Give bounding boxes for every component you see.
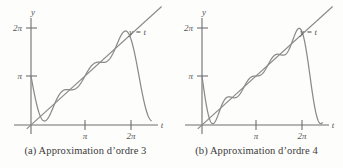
x-tick-label-2pi: 2π xyxy=(297,131,307,141)
plot-order-3: y t 2π π π 2π y = t xyxy=(0,0,171,142)
plot-order-4: y t 2π π π 2π y = t xyxy=(171,0,342,142)
caption-order-3: (a) Approximation d’ordre 3 xyxy=(0,145,171,156)
caption-order-4: (b) Approximation d’ordre 4 xyxy=(171,145,342,156)
identity-line-label: y = t xyxy=(299,27,318,37)
identity-line-curve xyxy=(27,6,162,128)
panel-approximation-order-3: y t 2π π π 2π y = t (a) Approximation d’… xyxy=(0,0,171,168)
y-axis-label: y xyxy=(201,7,206,17)
x-axis-label: t xyxy=(332,120,335,130)
identity-line-label: y = t xyxy=(128,27,147,37)
y-tick-label-2pi: 2π xyxy=(13,23,23,33)
y-tick-label-pi: π xyxy=(17,71,22,81)
identity-line-curve xyxy=(198,6,333,128)
fourier-approximation-curve xyxy=(31,31,151,121)
panel-approximation-order-4: y t 2π π π 2π y = t (b) Approximation d’… xyxy=(171,0,342,168)
figure-root: y t 2π π π 2π y = t (a) Approximation d’… xyxy=(0,0,343,168)
y-tick-label-pi: π xyxy=(188,71,193,81)
y-tick-label-2pi: 2π xyxy=(184,23,194,33)
x-tick-label-2pi: 2π xyxy=(126,131,136,141)
x-axis-label: t xyxy=(161,120,164,130)
x-tick-label-pi: π xyxy=(254,131,259,141)
y-axis-label: y xyxy=(30,7,35,17)
fourier-approximation-curve xyxy=(202,28,322,123)
x-tick-label-pi: π xyxy=(83,131,88,141)
